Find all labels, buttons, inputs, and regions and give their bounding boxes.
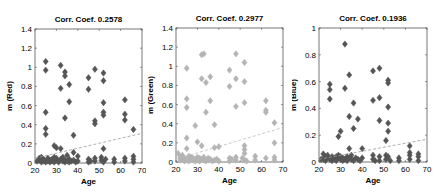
y-tick-label: 0.8 xyxy=(21,82,33,91)
x-tick-label: 60 xyxy=(116,166,125,175)
x-tick-label: 40 xyxy=(73,166,82,175)
x-axis-label: Age xyxy=(365,176,381,185)
y-tick-label: 1 xyxy=(28,63,33,72)
x-tick-label: 30 xyxy=(336,165,345,174)
y-tick-label: 1 xyxy=(169,62,174,71)
y-tick-label: 1.2 xyxy=(21,44,33,53)
y-tick-label: 0 xyxy=(169,158,174,167)
x-tick-label: 50 xyxy=(236,165,245,174)
y-tick-label: 0.4 xyxy=(305,104,317,113)
y-tick-label: 1.4 xyxy=(21,25,33,34)
y-tick-label: 0.2 xyxy=(162,139,174,148)
plot-area xyxy=(35,29,142,163)
plot-area xyxy=(319,28,427,162)
y-tick-label: 0.8 xyxy=(305,51,317,60)
panel-green: Corr. Coef. 0.297720304050607000.20.40.6… xyxy=(146,0,292,192)
y-tick-label: 1.4 xyxy=(162,24,174,33)
x-tick-label: 60 xyxy=(257,165,266,174)
y-tick-label: 0.8 xyxy=(162,81,174,90)
scatter-plot-green: Corr. Coef. 0.297720304050607000.20.40.6… xyxy=(146,0,292,192)
y-tick-label: 0.6 xyxy=(162,101,174,110)
y-tick-label: 0 xyxy=(28,159,33,168)
chart-title: Corr. Coef. 0.2578 xyxy=(55,15,123,24)
y-tick-label: 1 xyxy=(312,24,317,33)
plot-area xyxy=(176,28,283,162)
y-tick-label: 0 xyxy=(312,158,317,167)
x-tick-label: 30 xyxy=(52,166,61,175)
x-axis-label: Age xyxy=(81,177,97,186)
x-tick-label: 70 xyxy=(423,165,432,174)
x-tick-label: 60 xyxy=(401,165,410,174)
y-tick-label: 0.2 xyxy=(21,140,33,149)
y-tick-label: 0.6 xyxy=(305,78,317,87)
x-axis-label: Age xyxy=(222,176,238,185)
x-tick-label: 50 xyxy=(379,165,388,174)
panel-blue: Corr. Coef. 0.193620304050607000.20.40.6… xyxy=(292,0,439,192)
x-tick-label: 50 xyxy=(95,166,104,175)
y-tick-label: 0.2 xyxy=(305,131,317,140)
x-tick-label: 30 xyxy=(193,165,202,174)
y-tick-label: 1.2 xyxy=(162,43,174,52)
y-axis-label: m (Blue) xyxy=(292,79,298,111)
x-tick-label: 40 xyxy=(358,165,367,174)
y-tick-label: 0.4 xyxy=(162,120,174,129)
scatter-plot-red: Corr. Coef. 0.257820304050607000.20.40.6… xyxy=(0,0,146,192)
chart-title: Corr. Coef. 0.2977 xyxy=(196,14,264,23)
y-axis-label: m (Green) xyxy=(146,76,155,114)
x-tick-label: 40 xyxy=(214,165,223,174)
chart-title: Corr. Coef. 0.1936 xyxy=(339,14,407,23)
panel-red: Corr. Coef. 0.257820304050607000.20.40.6… xyxy=(0,0,146,192)
x-tick-label: 70 xyxy=(279,165,288,174)
x-tick-label: 70 xyxy=(138,166,146,175)
y-tick-label: 0.4 xyxy=(21,121,33,130)
y-tick-label: 0.6 xyxy=(21,102,33,111)
scatter-plot-blue: Corr. Coef. 0.193620304050607000.20.40.6… xyxy=(292,0,439,192)
y-axis-label: m (Red) xyxy=(5,81,14,111)
